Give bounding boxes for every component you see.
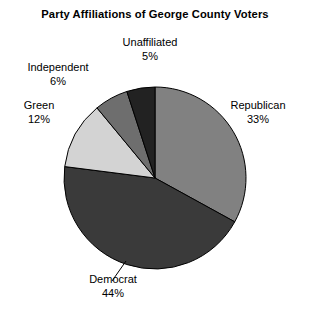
slice-label-republican-value: 33%	[208, 113, 308, 127]
slice-label-unaffiliated-name: Unaffiliated	[88, 36, 212, 50]
slice-label-independent-name: Independent	[2, 61, 114, 75]
slice-label-green-name: Green	[2, 99, 76, 113]
slice-label-democrat-value: 44%	[52, 287, 174, 301]
slice-label-unaffiliated-value: 5%	[88, 50, 212, 64]
slice-label-republican: Republican 33%	[208, 99, 308, 126]
slice-label-democrat: Democrat 44%	[52, 273, 174, 300]
slice-label-democrat-name: Democrat	[52, 273, 174, 287]
slice-label-republican-name: Republican	[208, 99, 308, 113]
slice-label-green-value: 12%	[2, 113, 76, 127]
slice-label-independent: Independent 6%	[2, 61, 114, 88]
slice-label-independent-value: 6%	[2, 75, 114, 89]
pie-chart-figure: Party Affiliations of George County Vote…	[0, 0, 310, 314]
slice-label-green: Green 12%	[2, 99, 76, 126]
slice-label-unaffiliated: Unaffiliated 5%	[88, 36, 212, 63]
